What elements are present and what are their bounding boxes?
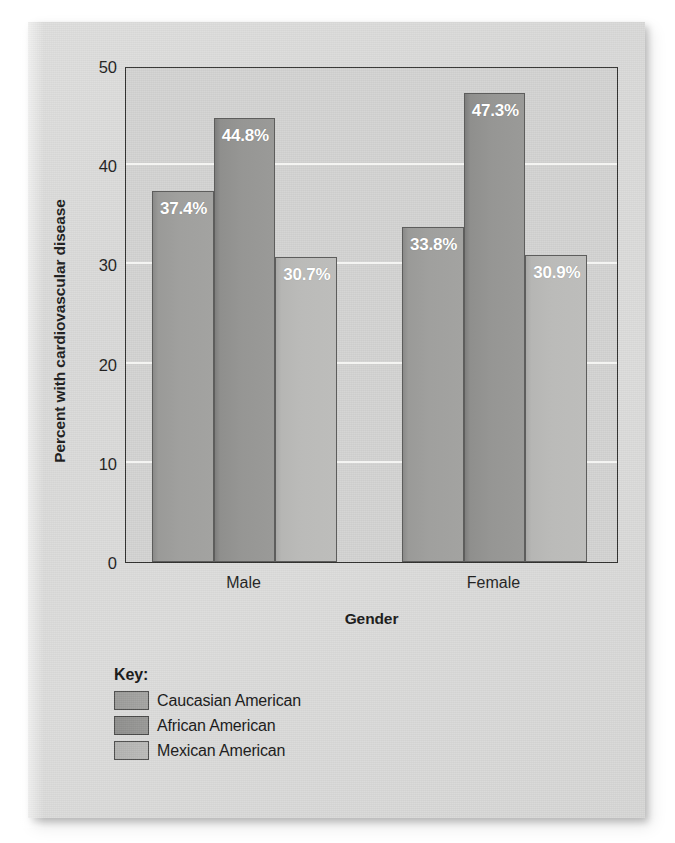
bar-chart: Percent with cardiovascular disease 0102…	[28, 22, 645, 818]
legend-items: Caucasian AmericanAfrican AmericanMexica…	[114, 691, 414, 760]
bar: 44.8%	[214, 118, 276, 562]
x-tick-label: Female	[467, 574, 520, 592]
bar: 47.3%	[464, 93, 526, 562]
bar: 37.4%	[152, 191, 214, 562]
legend-title: Key:	[114, 666, 414, 684]
legend-item-label: African American	[157, 717, 276, 735]
legend-item: Mexican American	[114, 741, 414, 760]
y-tick-label: 20	[71, 355, 117, 374]
legend: Key: Caucasian AmericanAfrican AmericanM…	[114, 666, 414, 766]
figure-card: Percent with cardiovascular disease 0102…	[28, 22, 645, 818]
x-tick-label: Male	[226, 574, 261, 592]
legend-item: Caucasian American	[114, 691, 414, 710]
bar: 33.8%	[402, 227, 464, 562]
bar: 30.9%	[525, 255, 587, 562]
bar-value-label: 30.9%	[533, 263, 580, 283]
y-tick-label: 10	[71, 454, 117, 473]
bar-value-label: 37.4%	[160, 199, 207, 219]
plot-inner: 37.4%44.8%30.7%33.8%47.3%30.9%	[126, 68, 617, 562]
bar-value-label: 30.7%	[283, 265, 330, 285]
y-tick-label: 30	[71, 256, 117, 275]
y-tick-label: 40	[71, 157, 117, 176]
gridline	[126, 163, 617, 165]
bar-value-label: 33.8%	[410, 235, 457, 255]
legend-item-label: Caucasian American	[157, 692, 301, 710]
y-axis-tick-labels: 01020304050	[65, 67, 117, 563]
legend-swatch-icon	[114, 741, 149, 760]
plot-area: 37.4%44.8%30.7%33.8%47.3%30.9%	[125, 67, 618, 563]
bar-value-label: 44.8%	[222, 126, 269, 146]
legend-swatch-icon	[114, 716, 149, 735]
bar: 30.7%	[275, 257, 337, 562]
y-tick-label: 0	[71, 554, 117, 573]
legend-item: African American	[114, 716, 414, 735]
legend-swatch-icon	[114, 691, 149, 710]
legend-item-label: Mexican American	[157, 742, 285, 760]
x-axis-title: Gender	[125, 610, 618, 628]
bar-value-label: 47.3%	[472, 101, 519, 121]
y-tick-label: 50	[71, 58, 117, 77]
